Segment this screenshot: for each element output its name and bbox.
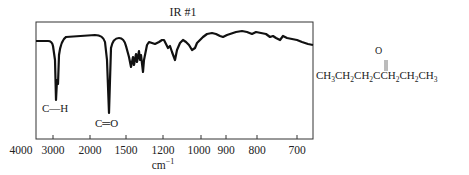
structural-formula: CH3CH2CH2CCH2CH2CH3	[316, 69, 438, 84]
tick-1000: 1000	[188, 144, 211, 156]
tick-900: 900	[217, 144, 234, 156]
plot-frame	[36, 22, 313, 139]
x-axis-label: cm−1	[152, 157, 175, 171]
annotation-ch: C—H	[42, 102, 68, 114]
carbonyl-oxygen: O	[375, 45, 382, 56]
x-ticks	[53, 135, 297, 139]
tick-3000: 3000	[42, 144, 65, 156]
tick-2000: 2000	[79, 144, 102, 156]
spectrum-line	[36, 31, 313, 113]
tick-1500: 1500	[115, 144, 138, 156]
annotation-co: C═O	[95, 117, 118, 129]
tick-4000: 4000	[10, 144, 33, 156]
tick-700: 700	[288, 144, 305, 156]
tick-1200: 1200	[152, 144, 175, 156]
tick-800: 800	[248, 144, 265, 156]
